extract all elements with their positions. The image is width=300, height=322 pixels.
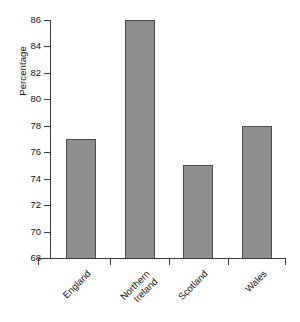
bar-northern-ireland [125,20,155,259]
x-axis-line [38,258,286,259]
bar-scotland [183,165,213,259]
bar-england [66,139,96,259]
x-axis-tick [228,259,229,265]
x-axis-tick [110,259,111,265]
x-axis-tick [38,259,39,265]
x-axis-tick [285,259,286,265]
bar-wales [242,126,272,259]
bar-chart: Percentage 86848280787674727068 EnglandN… [0,0,300,322]
x-axis-tick [169,259,170,265]
